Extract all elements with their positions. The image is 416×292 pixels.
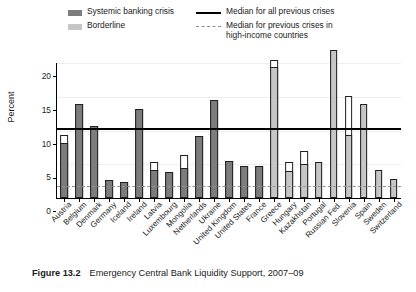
bar-chart: Percent 05101520 AustriaBelgiumDenmarkGe… — [0, 50, 416, 262]
figure-number: Figure 13.2 — [32, 268, 81, 278]
legend-item-systemic-banking-crisis: Systemic banking crisis — [68, 6, 174, 16]
bar-segment-filled — [120, 182, 128, 198]
bar-segment-filled — [285, 171, 293, 198]
legend-solid-line-icon — [196, 12, 221, 14]
bar-group[interactable] — [371, 63, 386, 198]
legend-label-median-high-income: Median for previous crises in high-incom… — [226, 20, 333, 40]
bar-group[interactable] — [326, 63, 341, 198]
bar-segment-filled — [300, 164, 308, 198]
bar-segment-filled — [180, 168, 188, 198]
bar-segment-filled — [390, 179, 398, 198]
legend-label-borderline: Borderline — [87, 20, 125, 30]
bar-segment-filled — [195, 136, 203, 198]
figure-title: Emergency Central Bank Liquidity Support… — [90, 268, 304, 278]
legend-swatch-icon-systemic — [68, 10, 82, 16]
y-tick-label: 10 — [0, 139, 56, 149]
bar-segment-filled — [255, 166, 263, 198]
bar-segment-filled — [240, 166, 248, 198]
bar-segment-filled — [135, 109, 143, 198]
bar-segment-filled — [330, 50, 338, 199]
legend-swatch-icon-borderline — [68, 24, 82, 30]
bar-segment-filled — [360, 104, 368, 198]
plot-area — [56, 63, 401, 199]
bar-group[interactable] — [102, 63, 117, 198]
bar-segment-filled — [345, 135, 353, 198]
bar-group[interactable] — [266, 63, 281, 198]
bar-group[interactable] — [192, 63, 207, 198]
bar-segment-filled — [76, 104, 84, 199]
y-tick-label: 5 — [0, 172, 56, 182]
bar-group[interactable] — [236, 63, 251, 198]
median-high-income-line — [57, 186, 401, 187]
median-all-crises-line — [57, 128, 401, 130]
bar-group[interactable] — [222, 63, 237, 198]
bar-segment-filled — [105, 180, 113, 198]
x-axis-labels: AustriaBelgiumDenmarkGermanyIcelandIrela… — [56, 200, 400, 262]
bar-group[interactable] — [386, 63, 401, 198]
plot-inner — [57, 63, 401, 198]
bar-group[interactable] — [57, 63, 72, 198]
bar-segment-filled — [315, 162, 323, 198]
y-tick-label: 20 — [0, 71, 56, 81]
bar-group[interactable] — [356, 63, 371, 198]
bar-segment-filled — [225, 161, 233, 198]
legend-item-median-high-income: Median for previous crises in high-incom… — [196, 20, 333, 40]
bar-group[interactable] — [207, 63, 222, 198]
bar-group[interactable] — [311, 63, 326, 198]
legend-item-median-all: Median for all previous crises — [196, 6, 334, 16]
bar-segment-filled — [375, 170, 383, 198]
legend-label-systemic: Systemic banking crisis — [87, 6, 174, 16]
bar-segment-filled — [165, 172, 173, 198]
y-tick-label: 0 — [0, 206, 56, 216]
legend-item-borderline: Borderline — [68, 20, 125, 30]
bar-group[interactable] — [177, 63, 192, 198]
bar-segment-filled — [90, 126, 98, 198]
bar-group[interactable] — [296, 63, 311, 198]
bar-group[interactable] — [281, 63, 296, 198]
bar-group[interactable] — [162, 63, 177, 198]
bar-group[interactable] — [147, 63, 162, 198]
bar-group[interactable] — [117, 63, 132, 198]
bar-group[interactable] — [132, 63, 147, 198]
figure-caption: Figure 13.2Emergency Central Bank Liquid… — [32, 268, 412, 278]
bar-segment-filled — [210, 100, 218, 198]
bar-group[interactable] — [251, 63, 266, 198]
y-axis: 05101520 — [0, 63, 56, 199]
bar-segment-filled — [270, 67, 278, 198]
bar-segment-filled — [61, 143, 69, 198]
y-tick-label: 15 — [0, 105, 56, 115]
bar-group[interactable] — [72, 63, 87, 198]
chart-legend: Systemic banking crisis Borderline Media… — [0, 4, 416, 50]
bar-group[interactable] — [341, 63, 356, 198]
legend-dashed-line-icon — [196, 26, 221, 27]
bar-segment-filled — [150, 170, 158, 198]
legend-label-median-all: Median for all previous crises — [226, 6, 334, 16]
bar-group[interactable] — [87, 63, 102, 198]
